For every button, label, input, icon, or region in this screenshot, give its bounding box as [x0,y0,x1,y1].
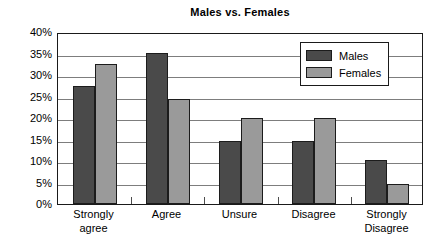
bar-males-strongly-disagree [365,160,387,204]
bar-females-unsure [241,118,263,204]
x-axis-label-unsure: Unsure [203,207,276,221]
y-axis-tick-label: 15% [0,135,52,146]
y-axis-tick-label: 5% [0,178,52,189]
bar-males-agree [146,53,168,204]
legend-label-females: Females [339,67,381,79]
bar-females-strongly-disagree [387,184,409,204]
x-axis-tick-mark [204,197,205,204]
y-axis-tick-labels: 40%35%30%25%20%15%10%5%0% [0,33,52,205]
y-axis-tick-label: 0% [0,199,52,210]
y-axis-tick-label: 10% [0,156,52,167]
y-axis-tick-label: 35% [0,49,52,60]
x-axis-tick-mark [351,197,352,204]
bar-females-disagree [314,118,336,204]
bar-males-strongly-agree [73,86,95,204]
legend-item-males: Males [306,47,381,64]
y-axis-tick-label: 25% [0,92,52,103]
y-axis-tick-label: 30% [0,70,52,81]
legend-label-males: Males [339,50,368,62]
x-axis-label-strongly-disagree: StronglyDisagree [350,207,423,235]
bar-males-unsure [219,141,241,204]
legend-swatch-females-icon [306,67,332,78]
chart-title: Males vs. Females [57,6,423,19]
y-axis-tick-label: 40% [0,27,52,38]
x-axis-tick-mark [131,197,132,204]
bar-males-disagree [292,141,314,204]
x-axis-label-disagree: Disagree [277,207,350,221]
bar-females-agree [168,99,190,204]
legend-swatch-males-icon [306,50,332,61]
bar-chart: Males vs. Females 40%35%30%25%20%15%10%5… [0,0,439,252]
x-axis-category-labels: StronglyagreeAgreeUnsureDisagreeStrongly… [57,207,423,252]
y-axis-tick-label: 20% [0,113,52,124]
x-axis-label-agree: Agree [130,207,203,221]
x-axis-tick-mark [278,197,279,204]
bar-females-strongly-agree [95,64,117,204]
legend-item-females: Females [306,64,381,81]
chart-legend: Males Females [300,42,389,86]
x-axis-label-strongly-agree: Stronglyagree [57,207,130,235]
